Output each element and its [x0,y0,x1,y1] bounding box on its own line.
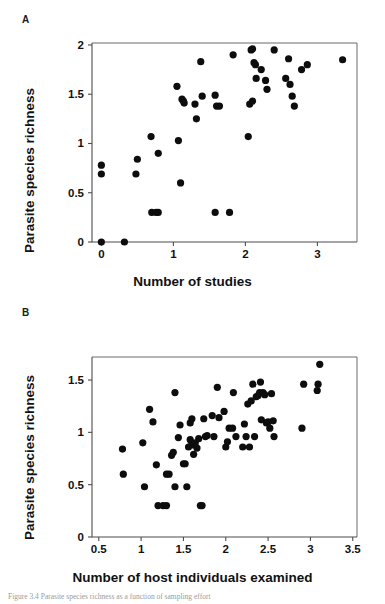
data-point [285,55,292,62]
y-tick-label: 1 [78,137,85,149]
x-tick-label: 2 [242,248,248,260]
data-point [188,415,195,422]
data-point [314,381,321,388]
data-point [212,92,219,99]
data-point [212,209,219,216]
data-point [226,209,233,216]
data-point [182,460,189,467]
data-point [298,66,305,73]
data-point [181,99,188,106]
data-point [246,443,253,450]
data-point [198,502,205,509]
data-point [286,81,293,88]
data-point [191,100,198,107]
data-point [289,93,296,100]
data-point [230,389,237,396]
data-point [200,415,207,422]
data-point [271,46,278,53]
data-point [270,433,277,440]
data-point [252,61,259,68]
x-tick-label: 1 [138,543,145,555]
data-point [216,102,223,109]
data-point [163,502,170,509]
data-point [121,238,128,245]
data-point [300,381,307,388]
data-point [134,156,141,163]
data-point [120,471,127,478]
data-point [258,66,265,73]
data-point [210,433,217,440]
data-point [220,408,227,415]
data-point [245,133,252,140]
y-tick-label: 1.5 [68,374,85,386]
x-tick-label: 1 [170,248,177,260]
data-point [209,412,216,419]
data-point [253,75,260,82]
panel-a-scatter-plot: 012300.511.52 [0,0,385,300]
x-tick-label: 0 [98,248,104,260]
data-point [173,83,180,90]
data-point [155,150,162,157]
data-point [268,390,275,397]
data-point [251,433,258,440]
data-point [153,461,160,468]
x-tick-label: 2 [223,543,229,555]
data-point [263,86,270,93]
y-tick-label: 1 [78,426,85,438]
figure-caption: Figure 3.4 Parasite species richness as … [8,592,378,601]
data-point [149,418,156,425]
data-point [195,435,202,442]
data-point [171,389,178,396]
data-point [204,432,211,439]
data-point [249,98,256,105]
data-point [177,179,184,186]
data-point [262,77,269,84]
data-point [98,238,105,245]
data-point [249,45,256,52]
data-point [183,483,190,490]
y-tick-label: 0 [78,236,84,248]
x-tick-label: 2.5 [260,543,277,555]
data-point [193,444,200,451]
x-tick-label: 3 [307,543,313,555]
data-point [224,438,231,445]
data-point [193,115,200,122]
x-tick-label: 1.5 [175,543,192,555]
data-point [291,102,298,109]
figure-container: A B Number of studies Parasite species r… [0,0,385,604]
data-point [171,483,178,490]
data-point [199,93,206,100]
data-point [146,406,153,413]
panel-b-scatter-plot: 0.511.522.533.500.511.5 [0,300,385,600]
data-point [190,451,197,458]
data-point [282,75,289,82]
data-point [304,61,311,68]
data-point [298,425,305,432]
data-point [242,433,249,440]
data-point [261,391,268,398]
data-point [170,449,177,456]
data-point [249,381,256,388]
data-point [197,58,204,65]
data-point [139,439,146,446]
data-point-group [98,45,346,245]
y-tick-label: 0.5 [68,479,85,491]
data-point [214,384,221,391]
data-point [229,425,236,432]
y-tick-label: 0.5 [68,187,85,199]
data-point [316,361,323,368]
y-tick-label: 2 [78,39,84,51]
data-point [165,471,172,478]
data-point [147,133,154,140]
x-tick-label: 0.5 [91,543,108,555]
x-tick-label: 3 [314,248,320,260]
data-point [98,162,105,169]
data-point [132,170,139,177]
data-point [155,209,162,216]
data-point [119,445,126,452]
data-point [339,56,346,63]
data-point [270,417,277,424]
data-point [230,51,237,58]
data-point [232,433,239,440]
data-point [314,387,321,394]
